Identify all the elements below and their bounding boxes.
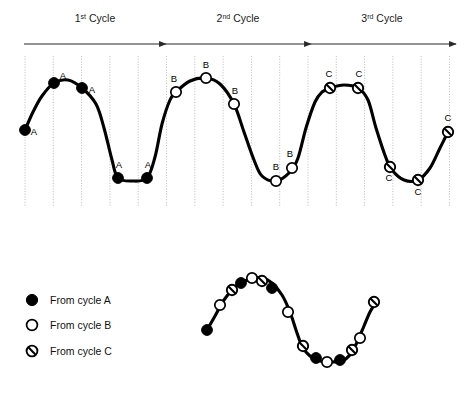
composite-marker-cycle-C <box>369 297 379 307</box>
sample-marker-cycle-A <box>142 173 153 184</box>
sample-label-B: B <box>232 85 238 96</box>
sample-marker-cycle-A <box>113 173 124 184</box>
sample-label-C: C <box>326 68 333 79</box>
legend-marker-C <box>27 346 38 357</box>
legend-marker-A <box>26 294 37 305</box>
sample-marker-cycle-C <box>385 162 395 172</box>
legend-marker-B <box>27 320 38 331</box>
legend-label-A: From cycle A <box>50 294 111 306</box>
sample-marker-cycle-B <box>201 73 211 83</box>
sample-marker-cycle-B <box>287 163 297 173</box>
composite-marker-cycle-C <box>298 341 308 351</box>
composite-marker-cycle-A <box>202 325 213 336</box>
sample-label-A: A <box>60 70 67 81</box>
sample-marker-cycle-B <box>171 87 181 97</box>
sample-marker-cycle-B <box>271 176 281 186</box>
composite-marker-cycle-C <box>257 276 267 286</box>
sample-label-C: C <box>415 186 422 197</box>
composite-marker-cycle-A <box>267 283 278 294</box>
sample-label-B: B <box>171 73 177 84</box>
composite-marker-cycle-B <box>322 357 332 367</box>
figure-background <box>0 0 471 395</box>
sample-marker-cycle-C <box>325 83 335 93</box>
legend-label-C: From cycle C <box>50 345 112 357</box>
composite-marker-cycle-A <box>311 353 322 364</box>
sample-label-C: C <box>386 172 393 183</box>
composite-marker-cycle-B <box>215 300 225 310</box>
composite-marker-cycle-B <box>283 307 293 317</box>
composite-marker-cycle-C <box>227 285 237 295</box>
sample-label-A: A <box>31 126 38 137</box>
legend-label-B: From cycle B <box>50 319 111 331</box>
sample-marker-cycle-A <box>49 78 60 89</box>
sample-label-B: B <box>287 148 293 159</box>
sample-label-A: A <box>145 159 152 170</box>
sample-label-B: B <box>203 59 209 70</box>
cycle-sampling-figure: 1st Cycle2nd Cycle3rd Cycle AAAAABBBBBCC… <box>0 0 471 395</box>
composite-marker-cycle-C <box>347 345 357 355</box>
composite-marker-cycle-A <box>236 278 247 289</box>
sample-label-A: A <box>116 159 123 170</box>
composite-marker-cycle-B <box>247 273 257 283</box>
sample-marker-cycle-C <box>413 175 423 185</box>
sample-marker-cycle-A <box>77 83 88 94</box>
sample-marker-cycle-A <box>20 125 31 136</box>
sample-label-B: B <box>273 161 279 172</box>
sample-marker-cycle-C <box>353 83 363 93</box>
composite-marker-cycle-A <box>335 355 346 366</box>
sample-label-C: C <box>445 112 452 123</box>
sample-marker-cycle-B <box>229 99 239 109</box>
sample-label-C: C <box>356 68 363 79</box>
sample-marker-cycle-C <box>443 127 453 137</box>
composite-marker-cycle-B <box>355 333 365 343</box>
sample-label-A: A <box>89 84 96 95</box>
